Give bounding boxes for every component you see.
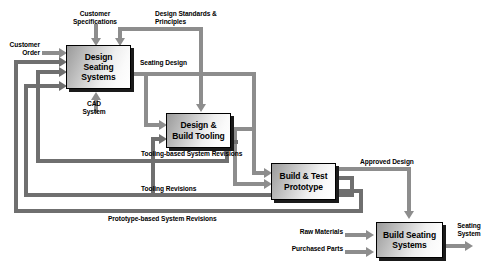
box-shadow-design-seating [69,89,134,92]
process-box-design-build-tooling[interactable]: Design & Build Tooling [166,113,231,148]
label-cad-system: CAD System [62,100,126,117]
box-shadow-design-seating-side [131,48,134,92]
conn-seating-design-to-tooling-h [144,123,160,127]
box-shadow-prototype-side [336,166,339,203]
arrowhead-design-standards-tooling [196,104,206,112]
conn-seating-system-out [446,244,466,248]
conn-approved-design-v [407,167,411,213]
label-approved-design: Approved Design [360,158,452,166]
conn-raw-materials [345,233,367,237]
process-box-label: Design Seating Systems [67,52,130,82]
arrowhead-purchased-parts [366,247,374,257]
process-box-label: Design & Build Tooling [170,120,226,140]
arrowhead-approved-design [404,211,414,219]
conn-seating-design-main [131,72,256,76]
label-customer-order: Customer Order [0,41,40,58]
box-shadow-tooling-side [231,116,234,151]
arrowhead-raw-materials [366,230,374,240]
label-customer-specifications: Customer Specifications [56,10,134,27]
conn-seating-design-to-tooling [144,72,148,125]
process-box-build-seating-systems[interactable]: Build Seating Systems [376,222,443,258]
conn-proto-rev-h-bottom [14,209,363,213]
label-tooling-revisions: Tooling Revisions [141,185,251,193]
label-seating-design: Seating Design [140,59,230,67]
box-shadow-build-seating [379,258,446,261]
label-prototype-based-system-revisions: Prototype-based System Revisions [108,215,278,223]
arrowhead-seating-system-out [465,241,473,251]
label-tooling-based-system-revisions: Tooling-based System Revisions [141,150,291,158]
conn-tooling-based-rev-h-bottom [36,159,229,163]
process-box-label: Build & Test Prototype [278,171,330,191]
conn-tooling-based-rev-into-box1 [36,70,60,74]
label-purchased-parts: Purchased Parts [283,245,343,253]
box-shadow-prototype [274,200,339,203]
process-box-build-test-prototype[interactable]: Build & Test Prototype [271,163,336,200]
conn-customer-order [42,51,60,55]
label-raw-materials: Raw Materials [283,228,343,236]
process-flow-diagram: Design Seating Systems Design & Build To… [0,0,491,273]
conn-tooling-rev-into-box1 [24,84,60,88]
process-box-label: Build Seating Systems [381,230,438,250]
label-seating-system: Seating System [448,222,490,239]
process-box-design-seating-systems[interactable]: Design Seating Systems [66,45,131,89]
box-shadow-build-seating-side [443,225,446,261]
conn-purchased-parts [345,250,367,254]
conn-approved-design-h [336,167,411,171]
conn-tooling-rev-v-up [24,84,28,193]
conn-design-standards-branch-top [118,27,203,31]
conn-proto-rev-v-left [14,60,18,209]
arrowhead-cad-system [91,92,101,100]
label-design-standards-principles: Design Standards & Principles [155,10,265,27]
conn-proto-rev-into-box1 [14,60,60,64]
